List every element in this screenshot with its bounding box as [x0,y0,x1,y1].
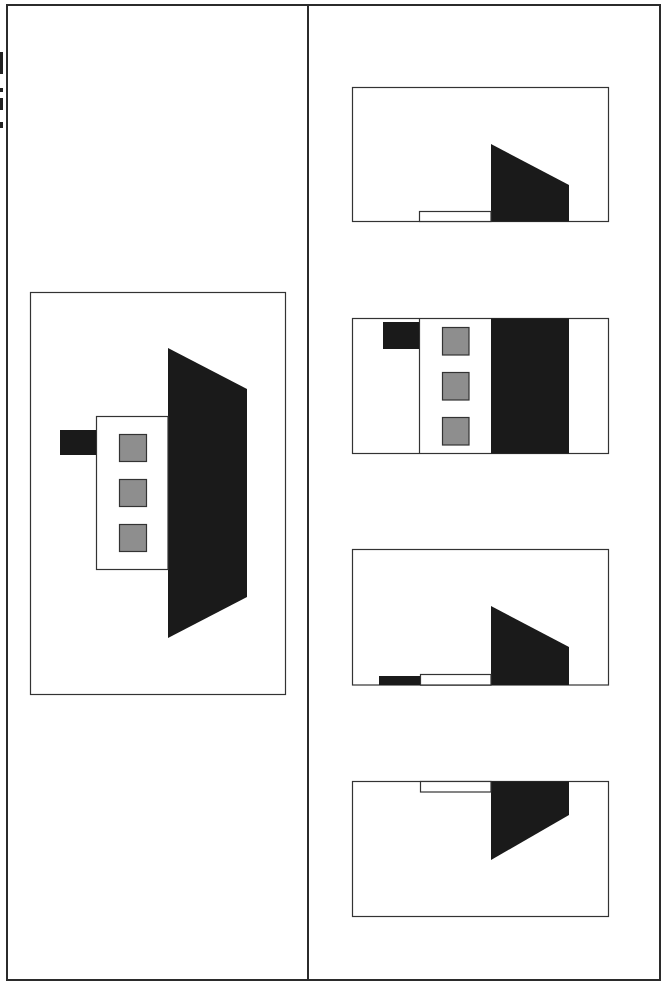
question-square [120,480,147,507]
question-trapezoid [168,348,247,638]
option-2-square [443,328,470,356]
question-square [120,525,147,552]
figure-canvas [0,0,665,985]
question-figure [31,293,286,695]
answer-option-4[interactable] [353,782,609,917]
option-1-white-bar [420,212,492,222]
option-3-white-bar [421,675,492,686]
answer-option-2[interactable] [353,319,609,454]
option-4-white-bar [421,782,492,793]
option-3-box[interactable] [353,550,609,686]
option-1-box[interactable] [353,88,609,222]
option-2-dark-band [491,319,569,454]
option-4-box[interactable] [353,782,609,917]
answer-option-3[interactable] [353,550,609,686]
question-tab [60,430,96,455]
option-2-tab [383,322,419,349]
option-2-square [443,418,470,446]
option-2-square [443,373,470,401]
question-square [120,435,147,462]
option-3-dark-bar [379,676,420,685]
answer-option-1[interactable] [353,88,609,222]
